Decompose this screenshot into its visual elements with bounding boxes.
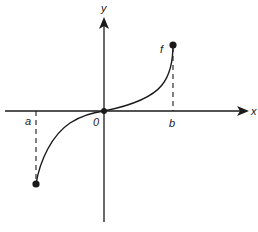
y-axis-label: y bbox=[100, 2, 108, 14]
point-b-label: b bbox=[169, 117, 175, 129]
curve-f-label: f bbox=[160, 43, 164, 55]
endpoint-b-dot bbox=[169, 41, 176, 48]
origin-dot bbox=[101, 108, 107, 114]
x-axis-label: x bbox=[250, 105, 257, 117]
endpoint-a-dot bbox=[32, 180, 39, 187]
origin-label: 0 bbox=[93, 116, 100, 128]
point-a-label: a bbox=[25, 115, 31, 127]
function-graph: y x 0 a b f bbox=[0, 0, 258, 232]
